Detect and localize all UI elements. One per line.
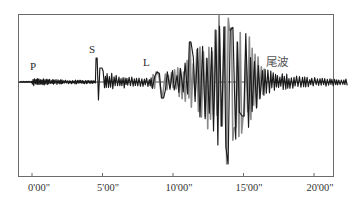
- x-axis-ticks: [32, 173, 314, 177]
- x-tick-label-0: 0'00": [28, 183, 50, 194]
- coda-wave-label: 尾波: [266, 57, 288, 69]
- seismogram-trace: [0, 0, 351, 206]
- x-tick-label-10: 10'00": [165, 183, 192, 194]
- x-tick-label-5: 5'00": [97, 183, 119, 194]
- x-tick-label-20: 20'00": [306, 183, 333, 194]
- x-tick-label-15: 15'00": [235, 183, 262, 194]
- p-wave-label: P: [30, 61, 36, 72]
- s-wave-label: S: [89, 44, 95, 55]
- l-wave-label: L: [143, 57, 150, 68]
- waveform: [19, 15, 348, 164]
